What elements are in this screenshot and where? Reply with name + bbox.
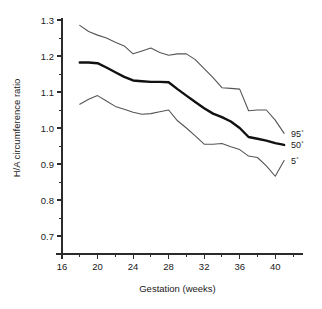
line-chart: 0.70.80.91.01.11.21.316202428323640Gesta… (0, 0, 322, 309)
x-tick-label: 24 (128, 261, 139, 272)
x-tick-label: 36 (234, 261, 245, 272)
y-tick-label: 1.3 (41, 15, 54, 26)
series-label-superscript-50: ° (301, 140, 304, 146)
x-tick-label: 40 (270, 261, 281, 272)
series-label-95: 95° (291, 129, 304, 139)
y-tick-label: 0.7 (41, 231, 54, 242)
series-label-text-95: 95° (291, 129, 304, 139)
series-label-superscript-95: ° (301, 129, 304, 135)
x-tick-label: 32 (199, 261, 210, 272)
y-axis-title: H/A circumference ratio (11, 79, 22, 178)
series-label-50: 50° (291, 140, 304, 150)
series-line-5 (80, 96, 284, 177)
y-tick-label: 0.8 (41, 195, 54, 206)
series-label-5: 5° (291, 156, 299, 166)
series-label-superscript-5: ° (296, 156, 299, 162)
x-axis-title: Gestation (weeks) (139, 283, 216, 294)
x-tick-label: 20 (92, 261, 103, 272)
y-tick-label: 1.1 (41, 87, 54, 98)
series-label-text-5: 5° (291, 156, 299, 166)
y-tick-label: 1.0 (41, 123, 54, 134)
y-tick-label: 0.9 (41, 159, 54, 170)
series-label-text-50: 50° (291, 140, 304, 150)
chart-figure: 0.70.80.91.01.11.21.316202428323640Gesta… (0, 0, 322, 309)
x-tick-label: 16 (57, 261, 68, 272)
series-line-95 (80, 25, 284, 133)
x-tick-label: 28 (163, 261, 174, 272)
y-tick-label: 1.2 (41, 51, 54, 62)
chart-series-group (80, 25, 284, 176)
chart-labels-group: 0.70.80.91.01.11.21.316202428323640Gesta… (11, 15, 304, 295)
